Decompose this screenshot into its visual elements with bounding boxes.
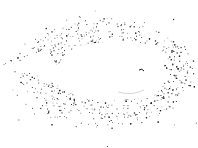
stipple-whale-illustration: [0, 0, 198, 148]
